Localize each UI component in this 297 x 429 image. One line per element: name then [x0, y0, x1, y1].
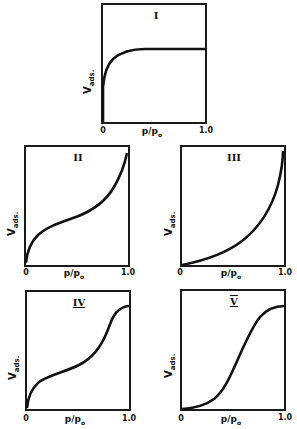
plot-frame-ii: II [24, 145, 130, 267]
y-axis-label-i: Vads. [82, 70, 96, 94]
plot-frame-i: I [101, 3, 207, 124]
x-tick-min-iv: 0 [23, 414, 29, 423]
numeral-label-v: V [230, 296, 238, 307]
isotherm-curve-ii [26, 147, 128, 265]
x-tick-max-iv: 1.0 [122, 414, 136, 423]
y-axis-label-ii: Vads. [6, 212, 20, 236]
y-axis-label-iii: Vads. [163, 212, 177, 236]
x-axis-label-v: p/po [221, 414, 241, 426]
x-axis-label-iii: p/po [221, 268, 241, 280]
isotherm-curve-v [182, 291, 284, 409]
isotherm-curve-iv [27, 292, 129, 409]
isotherm-curve-iii [182, 147, 284, 265]
x-tick-max-v: 1.0 [278, 413, 292, 422]
isotherm-curve-i [103, 5, 205, 122]
x-tick-min-i: 0 [100, 126, 106, 135]
x-tick-min-iii: 0 [177, 268, 183, 277]
x-tick-max-i: 1.0 [199, 126, 213, 135]
y-axis-label-v: Vads. [163, 354, 177, 378]
x-axis-label-i: p/po [142, 126, 162, 138]
x-tick-min-v: 0 [178, 414, 184, 423]
x-tick-max-iii: 1.0 [278, 268, 292, 277]
numeral-label-ii: II [73, 152, 82, 163]
x-tick-min-ii: 0 [23, 268, 29, 277]
plot-frame-v: V [180, 289, 286, 411]
numeral-label-iv: IV [73, 297, 85, 308]
numeral-label-i: I [154, 10, 159, 21]
x-axis-label-ii: p/po [64, 268, 84, 280]
y-axis-label-iv: Vads. [7, 356, 21, 380]
numeral-label-iii: III [227, 152, 241, 163]
x-axis-label-iv: p/po [65, 414, 85, 426]
plot-frame-iv: IV [25, 290, 131, 411]
plot-frame-iii: III [180, 145, 286, 267]
x-tick-max-ii: 1.0 [121, 268, 135, 277]
